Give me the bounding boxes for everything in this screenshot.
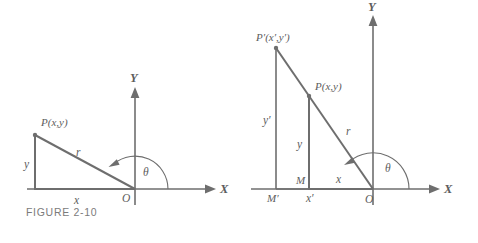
point-p-marker: [33, 133, 37, 137]
hypotenuse-line: [35, 135, 135, 189]
point-m-label: M: [295, 174, 306, 186]
inner-horizontal-leg-label: x: [335, 173, 342, 185]
point-p-label: P(x,y): [40, 116, 68, 129]
figure-2-10: P(x,y) y x r θ O X Y FIGURE 2-10: [0, 0, 239, 243]
figure-2-11-drawing: P′(x′,y′) P(x,y) y′ y x x′ r M M′ θ O X …: [239, 0, 478, 243]
point-p-prime-label: P′(x′,y′): [255, 31, 290, 44]
horizontal-leg-label: x: [73, 194, 80, 206]
theta-label: θ: [143, 166, 149, 178]
hypotenuse-label: r: [76, 146, 81, 158]
origin-label: O: [122, 192, 131, 204]
hypotenuse-line: [276, 48, 373, 189]
x-axis-label: X: [443, 182, 453, 196]
outer-vertical-leg-label: y′: [262, 114, 271, 127]
vertical-leg-label: y: [23, 158, 30, 171]
point-p-prime-marker: [274, 46, 278, 50]
x-axis-arrowhead: [429, 185, 440, 194]
theta-label: θ: [385, 162, 391, 174]
x-axis-arrowhead: [205, 185, 216, 194]
y-axis-label: Y: [368, 0, 377, 14]
y-axis-arrowhead: [131, 87, 140, 98]
point-p-label: P(x,y): [314, 80, 342, 93]
y-axis-arrowhead: [369, 15, 378, 26]
theta-arc: [349, 153, 409, 189]
outer-horizontal-leg-label: x′: [305, 192, 314, 204]
inner-vertical-leg-label: y: [296, 138, 303, 151]
theta-arc: [114, 156, 169, 189]
figure-2-10-caption: FIGURE 2-10: [26, 206, 97, 218]
y-axis-label: Y: [130, 71, 139, 85]
figure-2-11: P′(x′,y′) P(x,y) y′ y x x′ r M M′ θ O X …: [239, 0, 478, 243]
x-axis-label: X: [219, 182, 229, 196]
point-m-prime-label: M′: [266, 192, 279, 204]
hypotenuse-label: r: [346, 125, 351, 137]
point-p-marker: [307, 94, 311, 98]
figure-sheet: P(x,y) y x r θ O X Y FIGURE 2-10: [0, 0, 478, 243]
origin-label: O: [365, 193, 374, 205]
